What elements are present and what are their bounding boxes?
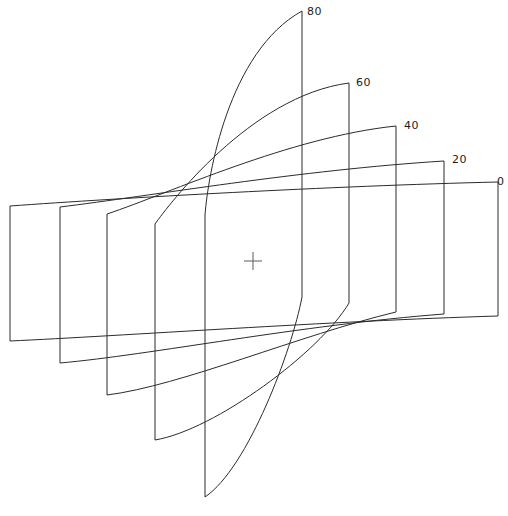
curve-label-20: 20	[452, 154, 467, 165]
panel-0-bottom-edge	[10, 316, 498, 341]
panel-20-top-edge	[60, 161, 444, 207]
curve-label-60: 60	[356, 77, 371, 88]
carpet-plot-figure: 80 60 40 20 0	[0, 0, 508, 516]
curve-label-0: 0	[497, 176, 505, 187]
center-cross-marker	[244, 252, 262, 270]
panel-60-top-edge	[155, 83, 349, 224]
panel-40-top-edge	[107, 126, 396, 214]
panel-80-top-edge	[205, 11, 302, 215]
curve-label-80: 80	[307, 6, 322, 17]
curve-label-40: 40	[404, 120, 419, 131]
plot-canvas	[0, 0, 508, 516]
panel-0-top-edge	[10, 182, 498, 206]
panel-40-bottom-edge	[107, 312, 396, 395]
